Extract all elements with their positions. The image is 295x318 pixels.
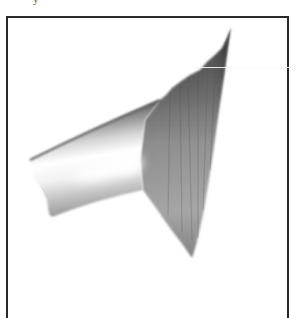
scan-artifact-line — [195, 67, 295, 68]
